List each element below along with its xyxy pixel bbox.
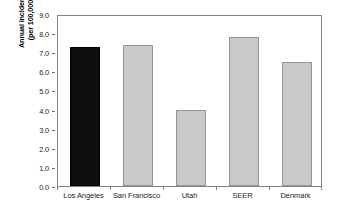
- bar: [70, 47, 100, 186]
- x-axis-tick-labels: Los AngelesSan FranciscoUtahSEERDenmark: [57, 191, 322, 207]
- plot-area: [57, 15, 322, 187]
- y-axis-tick-label: 4.0: [39, 106, 49, 115]
- x-axis-tick-mark: [110, 187, 111, 190]
- y-axis-tick-mark: [52, 91, 55, 92]
- x-axis-tick-label: Utah: [182, 191, 198, 200]
- x-axis-tick-mark: [269, 187, 270, 190]
- y-axis-tick-labels: 0.01.02.03.04.05.06.07.08.09.0: [33, 15, 55, 187]
- y-axis-tick-label: 3.0: [39, 125, 49, 134]
- y-axis-tick-label: 6.0: [39, 68, 49, 77]
- bar-chart: Annual incidence (per 100,000) 0.01.02.0…: [0, 0, 346, 211]
- x-axis-tick-mark: [321, 187, 322, 190]
- y-axis-tick-label: 5.0: [39, 87, 49, 96]
- y-axis-tick-label: 0.0: [39, 183, 49, 192]
- y-axis-tick-mark: [52, 130, 55, 131]
- bar: [123, 45, 153, 186]
- y-axis-tick-label: 7.0: [39, 49, 49, 58]
- y-axis-tick-mark: [52, 187, 55, 188]
- x-axis-tick-mark: [163, 187, 164, 190]
- bar: [176, 110, 206, 186]
- x-axis-tick-label: Los Angeles: [63, 191, 103, 200]
- y-axis-tick-mark: [52, 168, 55, 169]
- x-axis-tick-label: Denmark: [280, 191, 310, 200]
- y-axis-tick-mark: [52, 53, 55, 54]
- bar: [282, 62, 312, 186]
- y-axis-tick-label: 2.0: [39, 144, 49, 153]
- y-axis-tick-label: 9.0: [39, 11, 49, 20]
- x-axis-tick-label: San Francisco: [113, 191, 160, 200]
- bar: [229, 37, 259, 186]
- x-axis-tick-mark: [57, 187, 58, 190]
- bars-layer: [58, 16, 321, 186]
- y-axis-tick-label: 1.0: [39, 163, 49, 172]
- y-axis-tick-label: 8.0: [39, 30, 49, 39]
- y-axis-tick-mark: [52, 34, 55, 35]
- y-axis-tick-mark: [52, 72, 55, 73]
- x-axis-tick-mark: [216, 187, 217, 190]
- y-axis-tick-mark: [52, 149, 55, 150]
- y-axis-tick-mark: [52, 111, 55, 112]
- x-axis-tick-label: SEER: [232, 191, 252, 200]
